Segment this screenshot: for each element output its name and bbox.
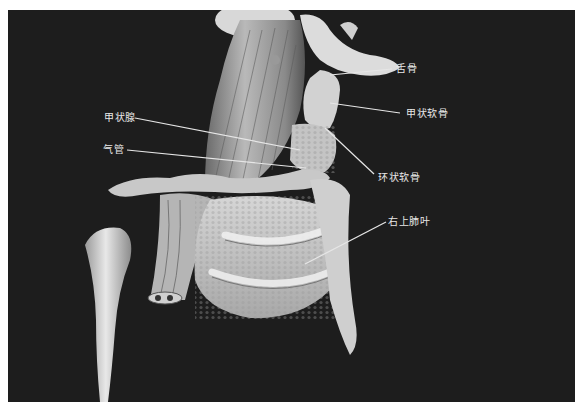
- label-trachea: 气管: [103, 144, 124, 156]
- anatomy-figure: [8, 10, 575, 402]
- humerus-shape: [85, 228, 131, 402]
- label-hyoid: 舌骨: [396, 63, 417, 75]
- leader-thyroid-cartilage: [330, 103, 400, 113]
- label-right-upper-lobe: 右上肺叶: [388, 216, 430, 228]
- label-cricoid-cartilage: 环状软骨: [378, 172, 420, 184]
- label-thyroid-gland: 甲状腺: [104, 112, 136, 124]
- label-thyroid-cartilage: 甲状软骨: [406, 108, 448, 120]
- anatomy-illustration: [8, 10, 575, 402]
- thyroid-cartilage-shape: [303, 70, 340, 129]
